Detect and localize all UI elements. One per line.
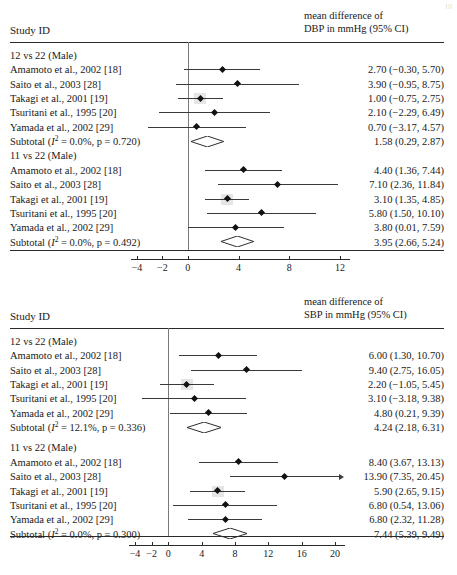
x-axis-tick <box>335 542 336 545</box>
x-axis-line <box>131 259 350 260</box>
summary-diamond <box>187 422 221 433</box>
effect-value: 3.90 (−0.95, 8.75) <box>368 79 444 90</box>
effect-value: 6.80 (2.32, 11.28) <box>369 514 444 525</box>
subtotal-label: Subtotal (I2 = 0.0%, p = 0.300) <box>10 529 140 540</box>
effect-value: 3.10 (1.35, 4.85) <box>374 194 444 205</box>
point-estimate-marker <box>211 109 218 116</box>
study-label: Amamoto et al., 2002 [18] <box>10 350 121 361</box>
effect-value: 6.00 (1.30, 10.70) <box>369 350 444 361</box>
x-axis-tick <box>235 542 236 545</box>
study-label: Amamoto et al., 2002 [18] <box>10 64 121 75</box>
study-label: Saito et al., 2003 [28] <box>10 179 101 190</box>
null-effect-line <box>188 42 189 250</box>
effect-value: 1.00 (−0.75, 2.75) <box>368 93 444 104</box>
effect-value: 7.10 (2.36, 11.84) <box>369 179 444 190</box>
x-axis-tick <box>135 542 136 545</box>
forest-plot-dbp: Study IDmean difference ofDBP in mmHg (9… <box>0 0 457 288</box>
x-axis-tick <box>168 542 169 545</box>
point-estimate-marker <box>274 181 281 188</box>
study-label: Yamada et al., 2002 [29] <box>10 514 113 525</box>
effect-value: 2.10 (−2.29, 6.49) <box>368 107 444 118</box>
column-header-effect: mean difference ofSBP in mmHg (95% CI) <box>304 296 407 321</box>
point-estimate-marker <box>281 473 288 480</box>
point-estimate-marker <box>205 409 212 416</box>
x-axis-tick <box>188 256 189 259</box>
subtotal-label: Subtotal (I2 = 0.0%, p = 0.720) <box>10 136 140 147</box>
point-estimate-marker <box>221 516 228 523</box>
study-label: Tsuritani et al., 1995 [20] <box>10 393 117 404</box>
effect-value: 13.90 (7.35, 20.45) <box>364 471 445 482</box>
effect-value: 2.20 (−1.05, 5.45) <box>368 379 444 390</box>
summary-diamond <box>191 136 224 147</box>
x-axis-tick-label: 20 <box>320 548 350 559</box>
x-axis-tick <box>340 256 341 259</box>
group-label: 11 vs 22 (Male) <box>10 442 76 453</box>
x-axis-tick-label: 12 <box>253 548 283 559</box>
group-label: 12 vs 22 (Male) <box>10 336 77 347</box>
x-axis-tick-label: 4 <box>224 262 254 273</box>
header-rule <box>10 42 444 43</box>
x-axis-tick-label: 8 <box>274 262 304 273</box>
study-label: Tsuritani et al., 1995 [20] <box>10 107 117 118</box>
column-header-study-id: Study ID <box>10 310 50 322</box>
study-label: Takagi et al., 2001 [19] <box>10 486 108 497</box>
subtotal-value: 4.24 (2.18, 6.31) <box>374 422 444 433</box>
forest-plot-sbp: Study IDmean difference ofSBP in mmHg (9… <box>0 288 457 575</box>
x-axis-tick <box>268 542 269 545</box>
effect-value: 4.80 (0.21, 9.39) <box>374 408 444 419</box>
x-axis-tick <box>137 256 138 259</box>
point-estimate-marker <box>240 166 247 173</box>
x-axis-tick-label: 0 <box>153 548 183 559</box>
subtotal-value: 1.58 (0.29, 2.87) <box>374 136 444 147</box>
point-estimate-marker <box>191 395 198 402</box>
study-label: Tsuritani et al., 1995 [20] <box>10 500 117 511</box>
point-estimate-marker <box>243 366 250 373</box>
point-estimate-marker <box>232 224 239 231</box>
column-header-effect: mean difference ofDBP in mmHg (95% CI) <box>304 10 409 35</box>
study-label: Amamoto et al., 2002 [18] <box>10 165 121 176</box>
ci-truncation-arrow <box>339 474 344 480</box>
study-label: Tsuritani et al., 1995 [20] <box>10 208 117 219</box>
study-label: Takagi et al., 2001 [19] <box>10 379 108 390</box>
effect-value: 4.40 (1.36, 7.44) <box>374 165 444 176</box>
x-axis-tick <box>152 542 153 545</box>
study-label: Saito et al., 2003 [28] <box>10 79 101 90</box>
effect-value: 2.70 (−0.30, 5.70) <box>368 64 444 75</box>
subtotal-label: Subtotal (I2 = 12.1%, p = 0.336) <box>10 422 145 433</box>
summary-diamond <box>221 236 254 247</box>
effect-value: 3.10 (−3.18, 9.38) <box>368 393 444 404</box>
x-axis-tick-label: 12 <box>325 262 355 273</box>
footer-rule <box>10 250 444 251</box>
subtotal-value: 3.95 (2.66, 5.24) <box>374 237 444 248</box>
point-estimate-marker <box>258 209 265 216</box>
x-axis-tick <box>239 256 240 259</box>
effect-value: 6.80 (0.54, 13.06) <box>369 500 444 511</box>
x-axis-tick-label: 0 <box>173 262 203 273</box>
x-axis-tick <box>202 542 203 545</box>
x-axis-tick <box>302 542 303 545</box>
x-axis-tick <box>289 256 290 259</box>
header-rule <box>10 328 444 329</box>
point-estimate-marker <box>193 123 200 130</box>
point-estimate-marker <box>235 458 242 465</box>
x-axis-tick-label: 4 <box>187 548 217 559</box>
point-estimate-marker <box>218 66 225 73</box>
group-label: 12 vs 22 (Male) <box>10 50 77 61</box>
summary-diamond <box>213 528 247 539</box>
study-label: Yamada et al., 2002 [29] <box>10 222 113 233</box>
effect-value: 9.40 (2.75, 16.05) <box>369 365 444 376</box>
study-label: Saito et al., 2003 [28] <box>10 365 101 376</box>
x-axis-line <box>129 545 345 546</box>
footer-rule <box>10 536 444 537</box>
study-label: Yamada et al., 2002 [29] <box>10 122 113 133</box>
study-label: Amamoto et al., 2002 [18] <box>10 457 121 468</box>
effect-value: 8.40 (3.67, 13.13) <box>369 457 444 468</box>
x-axis-tick-label: 16 <box>287 548 317 559</box>
point-estimate-marker <box>215 352 222 359</box>
study-label: Takagi et al., 2001 [19] <box>10 93 108 104</box>
effect-value: 5.90 (2.65, 9.15) <box>374 486 444 497</box>
group-label: 11 vs 22 (Male) <box>10 150 76 161</box>
effect-value: 5.80 (1.50, 10.10) <box>369 208 444 219</box>
effect-value: 3.80 (0.01, 7.59) <box>374 222 444 233</box>
x-axis-tick <box>162 256 163 259</box>
